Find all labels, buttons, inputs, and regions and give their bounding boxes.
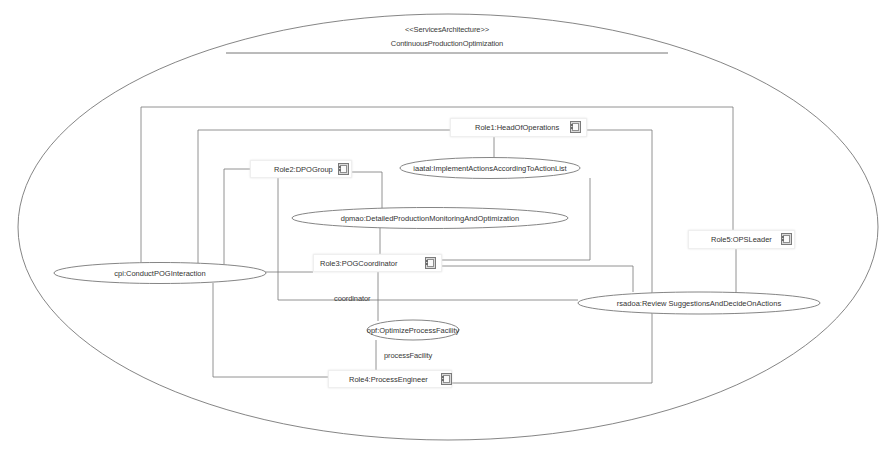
role2-label: Role2:DPOGroup <box>274 165 333 174</box>
role1-box[interactable]: Role1:HeadOfOperations <box>450 118 587 137</box>
connector-cpi-role4[interactable] <box>213 283 328 377</box>
classifier-structure-icon <box>441 373 452 385</box>
connector-cpi-role2[interactable] <box>224 169 250 264</box>
collab-iaatal-label: iaatal:ImplementActionsAccordingToAction… <box>413 164 566 173</box>
connector-role2-dpmao[interactable] <box>350 172 382 208</box>
collab-rsadoa-label: rsadoa:Review SuggestionsAndDecideOnActi… <box>617 299 781 308</box>
classifier-structure-icon <box>425 257 436 269</box>
connector-label-processfacility: processFacility <box>384 351 432 360</box>
connector-role2-rsadoa[interactable] <box>278 176 578 300</box>
role2-box[interactable]: Role2:DPOGroup <box>250 160 352 178</box>
classifier-structure-icon <box>781 233 792 245</box>
role3-box[interactable]: Role3:POGCoordinator <box>313 254 442 272</box>
role5-label: Role5:OPSLeader <box>711 235 772 244</box>
diagram-stereotype: <<ServicesArchitecture>> <box>405 25 489 34</box>
classifier-structure-icon <box>338 163 349 175</box>
diagram-title: ContinuousProductionOptimization <box>391 39 503 48</box>
connectors <box>141 107 736 383</box>
connector-cpi-role1[interactable] <box>198 130 450 263</box>
collab-dpmao-label: dpmao:DetailedProductionMonitoringAndOpt… <box>341 214 519 223</box>
collab-cpi-label: cpi:ConductPOGInteraction <box>114 269 205 278</box>
classifier-structure-icon <box>570 121 581 133</box>
connector-label-coordinator: coordinator <box>334 294 370 303</box>
collab-opf-label: opf:OptimizeProcessFacility <box>367 326 460 335</box>
role4-box[interactable]: Role4:ProcessEngineer <box>328 370 452 388</box>
role3-label: Role3:POGCoordinator <box>320 259 398 268</box>
role1-label: Role1:HeadOfOperations <box>475 123 559 132</box>
role5-box[interactable]: Role5:OPSLeader <box>688 230 795 249</box>
role4-label: Role4:ProcessEngineer <box>349 375 428 384</box>
connector-role3-rsadoa[interactable] <box>440 266 633 292</box>
